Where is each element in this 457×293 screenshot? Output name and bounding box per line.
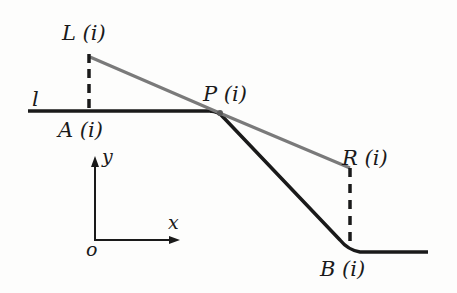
- label-line-l: l: [32, 87, 39, 111]
- label-b-point: B (i): [319, 257, 365, 281]
- diagram-svg: L (i) A (i) P (i) R (i) B (i) l y x o: [0, 0, 457, 293]
- label-a-point: A (i): [56, 118, 103, 142]
- label-r-point: R (i): [341, 146, 388, 170]
- point-p: [217, 110, 223, 116]
- label-l-point: L (i): [61, 21, 106, 45]
- y-axis-arrow-icon: [91, 156, 99, 167]
- black-polyline: [210, 111, 428, 252]
- diagram-canvas: L (i) A (i) P (i) R (i) B (i) l y x o: [0, 0, 457, 293]
- label-origin: o: [86, 238, 97, 260]
- label-x-axis: x: [168, 211, 179, 233]
- label-y-axis: y: [101, 145, 113, 167]
- label-p-point: P (i): [202, 82, 247, 106]
- x-axis-arrow-icon: [169, 236, 180, 244]
